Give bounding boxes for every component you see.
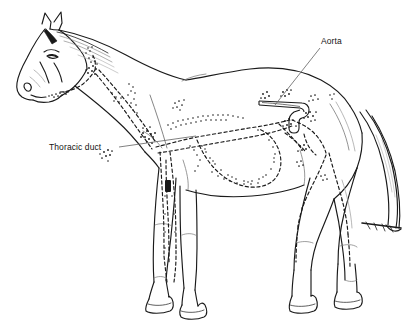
aorta-label: Aorta <box>321 36 342 46</box>
horse-outline-svg <box>0 0 414 331</box>
figure-background <box>0 0 414 331</box>
thoracic-duct-label: Thoracic duct <box>49 142 101 152</box>
anatomical-figure: Aorta Thoracic duct <box>0 0 414 331</box>
